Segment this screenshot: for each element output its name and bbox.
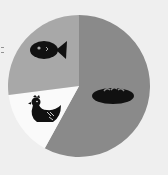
pie-slices: [8, 15, 150, 157]
pie-chart: [0, 0, 168, 175]
